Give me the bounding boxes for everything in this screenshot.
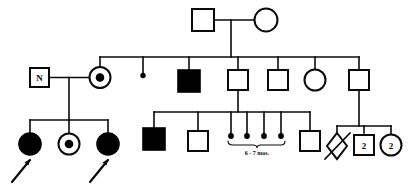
symbol-loss-III-8: [261, 133, 267, 139]
symbol-loss-III-7: [244, 133, 250, 139]
symbol-female-III-3: [97, 133, 119, 155]
symbol-female-III-1: [19, 133, 41, 155]
label-normal-male: N: [36, 73, 43, 83]
gestation-brace: [228, 141, 285, 148]
symbol-female-II-6: [305, 70, 326, 91]
generation-2-group: N: [30, 67, 369, 126]
generation-1-group: [192, 9, 278, 58]
symbol-female-I-2: [255, 9, 278, 32]
symbol-male-II-7: [349, 70, 369, 90]
symbol-male-II-5: [268, 70, 288, 90]
symbol-loss-III-6: [228, 133, 234, 139]
symbol-male-III-4: [143, 128, 165, 150]
sib-count-female: 2: [389, 141, 394, 151]
symbol-male-III-10: [300, 131, 320, 151]
symbol-male-II-3: [178, 70, 200, 92]
pedigree-canvas: N: [0, 0, 414, 191]
pedigree-chart: N: [0, 0, 414, 191]
symbol-male-II-4: [228, 70, 248, 90]
sibship-left-gen3-group: [12, 120, 119, 182]
symbol-male-III-5: [188, 131, 208, 151]
carrier-dot-III-2: [65, 140, 74, 149]
proband-arrow-III-3: [90, 159, 108, 182]
proband-arrow-III-1: [12, 159, 30, 182]
carrier-dot-II-1: [96, 73, 105, 82]
sibship-right-gen3-group: 2 2: [325, 126, 402, 159]
sibship-mid-gen3-group: 6 - 7 mos.: [143, 112, 320, 156]
symbol-loss-II-2: [140, 73, 145, 78]
sib-count-male: 2: [362, 141, 367, 151]
symbol-male-I-1: [192, 9, 214, 31]
symbol-loss-III-9: [278, 133, 284, 139]
gestation-note: 6 - 7 mos.: [245, 150, 270, 156]
